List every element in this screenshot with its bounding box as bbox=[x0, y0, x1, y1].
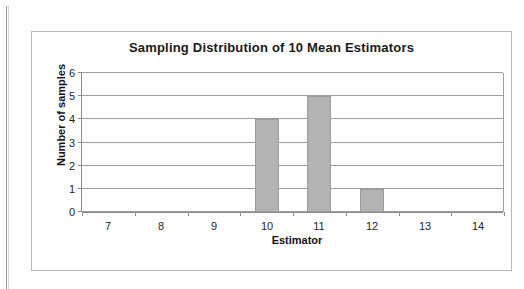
x-tick-label-9: 9 bbox=[211, 220, 217, 232]
gridline-y-6 bbox=[82, 72, 503, 73]
y-tick-mark-5 bbox=[78, 95, 82, 96]
gridline-y-4 bbox=[82, 118, 503, 119]
scan-artifact-line bbox=[6, 6, 7, 289]
gridline-y-3 bbox=[82, 142, 503, 143]
x-tick-mark-2 bbox=[188, 212, 189, 216]
y-tick-mark-4 bbox=[78, 118, 82, 119]
x-tick-mark-5 bbox=[346, 212, 347, 216]
gridline-y-5 bbox=[82, 95, 503, 96]
gridline-y-1 bbox=[82, 188, 503, 189]
x-tick-label-10: 10 bbox=[261, 220, 273, 232]
x-tick-label-11: 11 bbox=[313, 220, 324, 232]
y-tick-mark-2 bbox=[78, 165, 82, 166]
y-tick-mark-6 bbox=[78, 72, 82, 73]
x-tick-label-12: 12 bbox=[366, 220, 378, 232]
x-tick-mark-0 bbox=[82, 212, 83, 216]
bar-11 bbox=[307, 96, 331, 212]
x-axis-title: Estimator bbox=[82, 234, 512, 246]
y-tick-label-1: 1 bbox=[69, 183, 75, 195]
x-tick-mark-8 bbox=[504, 212, 505, 216]
chart-screenshot: Sampling Distribution of 10 Mean Estimat… bbox=[0, 0, 524, 289]
x-tick-label-13: 13 bbox=[419, 220, 431, 232]
bar-10 bbox=[255, 119, 279, 212]
chart-frame: Sampling Distribution of 10 Mean Estimat… bbox=[31, 31, 512, 271]
y-tick-label-0: 0 bbox=[69, 206, 75, 218]
y-tick-mark-1 bbox=[78, 188, 82, 189]
y-axis-line bbox=[81, 73, 82, 212]
y-tick-label-4: 4 bbox=[69, 113, 75, 125]
scan-artifact-line-secondary bbox=[8, 6, 9, 289]
bar-12 bbox=[360, 189, 384, 212]
y-tick-label-5: 5 bbox=[69, 90, 75, 102]
x-tick-mark-1 bbox=[135, 212, 136, 216]
y-tick-label-6: 6 bbox=[69, 67, 75, 79]
gridline-y-2 bbox=[82, 165, 503, 166]
x-tick-label-7: 7 bbox=[105, 220, 111, 232]
x-tick-mark-7 bbox=[451, 212, 452, 216]
plot-area: 01234567891011121314 bbox=[82, 73, 504, 212]
chart-title: Sampling Distribution of 10 Mean Estimat… bbox=[32, 40, 511, 55]
y-tick-mark-3 bbox=[78, 142, 82, 143]
x-tick-mark-4 bbox=[293, 212, 294, 216]
x-tick-mark-3 bbox=[240, 212, 241, 216]
x-tick-label-14: 14 bbox=[472, 220, 484, 232]
x-tick-mark-6 bbox=[399, 212, 400, 216]
x-tick-label-8: 8 bbox=[158, 220, 164, 232]
y-tick-label-3: 3 bbox=[69, 137, 75, 149]
y-tick-label-2: 2 bbox=[69, 160, 75, 172]
